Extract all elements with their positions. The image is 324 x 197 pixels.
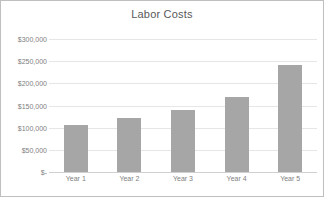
bar-slot (103, 39, 157, 172)
chart-title: Labor Costs (1, 8, 323, 20)
y-axis-tick-label: $50,000 (3, 146, 47, 153)
y-axis-tick-label: $- (3, 169, 47, 176)
x-axis-tick-label: Year 1 (66, 175, 86, 182)
bar[interactable] (64, 125, 88, 172)
y-axis-tick-label: $150,000 (3, 102, 47, 109)
y-axis-tick-label: $250,000 (3, 58, 47, 65)
bar[interactable] (278, 65, 302, 172)
bar[interactable] (225, 97, 249, 172)
x-axis-tick-label: Year 4 (227, 175, 247, 182)
bar-slot (156, 39, 210, 172)
x-axis-tick-label: Year 5 (280, 175, 300, 182)
x-axis-tick-label: Year 2 (119, 175, 139, 182)
y-axis-tick-label: $200,000 (3, 80, 47, 87)
x-axis-labels: Year 1Year 2Year 3Year 4Year 5 (49, 175, 317, 191)
bar-slot (263, 39, 317, 172)
x-axis-line (49, 172, 317, 173)
y-axis-tick-label: $300,000 (3, 36, 47, 43)
bar-series (49, 39, 317, 172)
bar-slot (49, 39, 103, 172)
y-axis-labels: $-$50,000$100,000$150,000$200,000$250,00… (1, 1, 47, 197)
bar[interactable] (117, 118, 141, 172)
x-axis-tick-label: Year 3 (173, 175, 193, 182)
bar-slot (210, 39, 264, 172)
bar[interactable] (171, 110, 195, 172)
chart-container: Labor Costs $-$50,000$100,000$150,000$20… (0, 0, 324, 197)
y-axis-tick-label: $100,000 (3, 124, 47, 131)
